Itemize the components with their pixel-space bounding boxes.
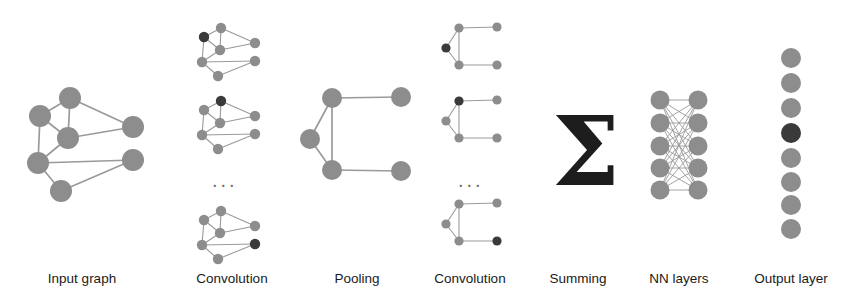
conv1-g1-node-n6 <box>250 56 260 66</box>
pooling-node-p5 <box>391 161 411 181</box>
conv1-g1-node-n5 <box>197 57 207 67</box>
graph-edge <box>38 160 133 163</box>
sigma-symbol: Σ <box>552 104 620 200</box>
pooling-node-p4 <box>322 160 342 180</box>
conv1-g2-node-n2 <box>199 105 209 115</box>
conv1-g3-node-n4 <box>250 221 260 231</box>
conv1-g3-node-n1 <box>216 206 226 216</box>
output-node-o5 <box>781 148 801 168</box>
conv1-g1-node-n7 <box>213 71 223 81</box>
conv2-g1-node-p1 <box>454 23 463 32</box>
conv2-g2-node-p1 <box>454 96 463 105</box>
conv2-g1-node-p3 <box>441 43 450 52</box>
conv1-g2-node-n3 <box>215 118 225 128</box>
output-node-o1 <box>781 48 801 68</box>
output-node-o3 <box>781 98 801 118</box>
diagram-graphics <box>0 0 862 298</box>
graph-edge <box>202 134 255 135</box>
input-graph-node-n1 <box>59 87 81 109</box>
nn-node-l1-1 <box>651 91 670 110</box>
conv1-g3-node-n5 <box>197 240 207 250</box>
conv1-g3-node-n6 <box>250 239 260 249</box>
output-node-o2 <box>781 73 801 93</box>
conv2-ellipsis: ... <box>458 170 484 190</box>
nn-node-l1-3 <box>651 137 670 156</box>
nn-node-l2-3 <box>689 137 708 156</box>
caption-output-layer: Output layer <box>711 272 862 286</box>
output-node-o4 <box>781 123 801 143</box>
graph-edge <box>218 244 255 259</box>
graph-edge <box>220 226 255 233</box>
nn-node-l1-4 <box>651 159 670 178</box>
graph-edge <box>221 211 255 226</box>
graph-edge <box>459 100 497 101</box>
graph-edge <box>459 203 497 204</box>
pooling-node-p3 <box>300 129 320 149</box>
caption-input-graph: Input graph <box>2 272 162 286</box>
conv1-g3-node-n7 <box>213 254 223 264</box>
graph-edge <box>202 61 255 62</box>
conv1-g2-node-n1 <box>216 96 226 106</box>
input-graph-node-n4 <box>122 116 144 138</box>
conv2-g3-node-p3 <box>441 219 450 228</box>
graph-edge <box>218 61 255 76</box>
conv1-ellipsis: ... <box>212 170 238 190</box>
conv1-g2-node-n5 <box>197 130 207 140</box>
graph-edge <box>221 101 255 116</box>
conv2-g3-node-p2 <box>492 198 501 207</box>
input-graph-node-n3 <box>57 127 79 149</box>
conv2-g2-node-p3 <box>441 116 450 125</box>
input-graph-node-n7 <box>50 180 72 202</box>
conv1-g1-node-n2 <box>199 32 209 42</box>
conv2-g3-node-p1 <box>454 199 463 208</box>
nn-node-l2-5 <box>689 181 708 200</box>
conv1-g2-node-n6 <box>250 129 260 139</box>
nn-node-l2-4 <box>689 159 708 178</box>
conv2-g1-node-p2 <box>492 22 501 31</box>
conv2-g3-node-p4 <box>454 236 463 245</box>
conv1-g2-node-n7 <box>213 144 223 154</box>
graph-edge <box>61 160 133 191</box>
graph-edge <box>332 170 401 171</box>
conv2-g2-node-p4 <box>454 133 463 142</box>
input-graph-node-n2 <box>29 105 51 127</box>
nn-node-l2-2 <box>689 114 708 133</box>
output-node-o7 <box>781 195 801 215</box>
graph-edge <box>218 134 255 149</box>
input-graph-node-n6 <box>122 149 144 171</box>
graph-edge <box>202 244 255 245</box>
conv1-g3-node-n2 <box>199 215 209 225</box>
pooling-node-p2 <box>391 87 411 107</box>
conv2-g2-node-p5 <box>492 133 501 142</box>
conv2-g2-node-p2 <box>492 95 501 104</box>
nn-node-l2-1 <box>689 91 708 110</box>
conv1-g1-node-n4 <box>250 38 260 48</box>
conv1-g1-node-n3 <box>215 45 225 55</box>
input-graph-node-n5 <box>27 152 49 174</box>
conv1-g3-node-n3 <box>215 228 225 238</box>
conv2-g1-node-p4 <box>454 60 463 69</box>
conv1-g1-node-n1 <box>216 23 226 33</box>
diagram-canvas: Σ......Input graphConvolutionPoolingConv… <box>0 0 862 298</box>
conv2-g3-node-p5 <box>492 236 501 245</box>
output-node-o8 <box>781 219 801 239</box>
pooling-node-p1 <box>322 88 342 108</box>
conv2-g1-node-p5 <box>492 60 501 69</box>
conv1-g2-node-n4 <box>250 111 260 121</box>
graph-edge <box>220 116 255 123</box>
graph-edge <box>221 28 255 43</box>
nn-node-l1-5 <box>651 181 670 200</box>
output-node-o6 <box>781 172 801 192</box>
graph-edge <box>332 97 401 98</box>
graph-edge <box>459 27 497 28</box>
graph-edge <box>220 43 255 50</box>
nn-node-l1-2 <box>651 114 670 133</box>
